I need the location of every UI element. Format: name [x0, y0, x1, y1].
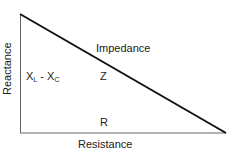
- subscript-c: C: [54, 76, 59, 83]
- impedance-symbol-z: Z: [100, 70, 107, 82]
- impedance-label: Impedance: [96, 42, 150, 54]
- resistance-symbol-r: R: [100, 116, 108, 128]
- x-axis-label: Resistance: [78, 138, 132, 150]
- y-axis-label: Reactance: [1, 42, 13, 95]
- minus-sign: -: [37, 70, 47, 82]
- reactance-difference-label: XL - XC: [26, 70, 59, 86]
